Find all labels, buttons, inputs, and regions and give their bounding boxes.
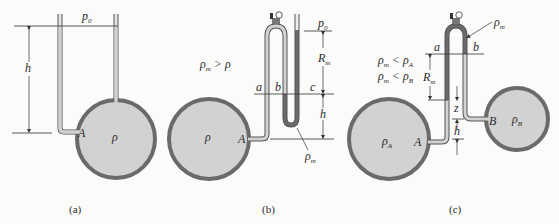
panel-b: ρm > ρ p0 Rm h a b c A ρ ρm (b)	[169, 12, 334, 216]
label-rho-b: ρ	[204, 130, 211, 144]
label-h-b: h	[320, 107, 326, 121]
valve-icon-b	[270, 12, 282, 24]
label-level-c-b: c	[310, 80, 316, 94]
u-tube-manometer-b	[248, 14, 297, 139]
panel-c: ρm < ρA ρm < ρB ρm a b Rm z h A B ρA ρB …	[349, 12, 548, 216]
condition2-label-c: ρm < ρB	[377, 69, 414, 85]
caption-b: (b)	[262, 203, 275, 216]
label-point-B-c: B	[489, 114, 497, 128]
valve-icon-c	[450, 12, 462, 24]
label-level-a-b: a	[256, 80, 262, 94]
label-level-a-c: a	[434, 40, 440, 54]
label-Rm-c: Rm	[422, 70, 435, 86]
caption-a: (a)	[69, 203, 82, 216]
condition1-label-c: ρm < ρA	[377, 53, 414, 69]
label-h-c: h	[454, 124, 460, 138]
label-rho-m-c: ρm	[493, 15, 505, 31]
label-point-A-b: A	[237, 132, 246, 146]
condition-label-b: ρm > ρ	[199, 57, 231, 73]
caption-c: (c)	[449, 203, 462, 216]
label-p0-b: p0	[317, 16, 328, 32]
panel-a: h p0 A ρ (a)	[12, 9, 155, 216]
label-Rm-b: Rm	[317, 51, 330, 67]
manometer-diagram: h p0 A ρ (a) ρm > ρ p0 Rm	[0, 0, 559, 224]
label-level-b-b: b	[275, 80, 281, 94]
label-rho-a: ρ	[111, 130, 118, 144]
label-point-A-c: A	[413, 135, 422, 149]
label-level-b-c: b	[473, 40, 479, 54]
piezometer-tube-left	[60, 14, 78, 132]
label-p0-a: p0	[81, 9, 92, 25]
label-h-a: h	[25, 61, 31, 75]
label-rho-m-b: ρm	[304, 149, 316, 165]
label-point-A-a: A	[77, 126, 86, 140]
label-z-c: z	[453, 101, 459, 115]
